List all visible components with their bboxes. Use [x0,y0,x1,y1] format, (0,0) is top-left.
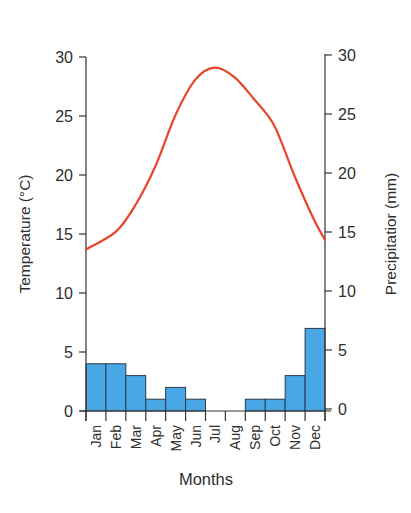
left-tick-label: 0 [64,403,73,420]
y-right-axis-title: Precipitatior (mm) [382,173,399,295]
month-label-jun: Jun [188,425,204,448]
left-tick-label: 15 [55,226,73,243]
month-label-aug: Aug [227,425,243,450]
month-label-dec: Dec [307,425,323,450]
month-label-oct: Oct [267,425,283,447]
month-label-apr: Apr [148,425,164,447]
right-tick-label: 15 [338,224,356,241]
x-axis-title: Months [179,470,233,488]
month-ticks: JanFebMarAprMayJunJulAugSepOctNovDec [86,411,325,451]
month-label-feb: Feb [108,425,124,449]
right-tick-label: 0 [338,401,347,418]
right-tick-label: 10 [338,283,356,300]
month-label-mar: Mar [128,425,144,449]
precip-bar-apr [146,399,166,411]
precip-bar-feb [106,364,126,411]
month-label-may: May [168,425,184,451]
precip-bar-nov [285,376,305,411]
left-tick-label: 5 [64,344,73,361]
month-label-sep: Sep [247,425,263,450]
right-tick-label: 20 [338,165,356,182]
precip-bar-dec [305,328,325,411]
month-label-jul: Jul [207,425,223,443]
month-label-jan: Jan [88,425,104,448]
right-tick-label: 30 [338,47,356,64]
left-tick-label: 10 [55,285,73,302]
precip-bar-oct [265,399,285,411]
right-tick-label: 5 [338,342,347,359]
precip-bar-mar [126,376,146,411]
precip-bar-sep [245,399,265,411]
y-left-axis-title: Temperature (°C) [16,174,33,293]
precip-bar-jun [186,399,206,411]
climate-chart: 051015202530 051015202530 JanFebMarAprMa… [0,0,411,513]
left-tick-label: 25 [55,108,73,125]
month-label-nov: Nov [287,425,303,450]
right-axis-ticks: 051015202530 [325,47,356,418]
right-tick-label: 25 [338,106,356,123]
precip-bar-may [166,387,186,411]
precipitation-bars [86,328,325,411]
left-axis-ticks: 051015202530 [55,49,86,420]
precip-bar-jan [86,364,106,411]
left-tick-label: 30 [55,49,73,66]
left-tick-label: 20 [55,167,73,184]
caption-cutoff [0,503,411,513]
temperature-line [86,68,325,250]
